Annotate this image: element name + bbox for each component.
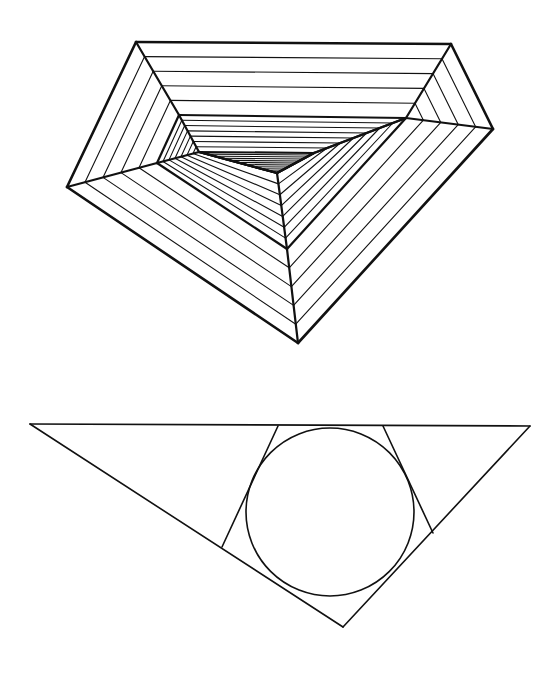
hatch-line	[424, 88, 441, 122]
hatch-line	[163, 161, 286, 238]
skeleton-spoke	[406, 118, 493, 129]
skeleton-spoke	[277, 173, 287, 249]
hatch-line	[85, 57, 145, 183]
tangent-line	[222, 426, 278, 547]
hatch-line	[196, 147, 327, 148]
triangle-edge	[30, 424, 530, 426]
hatch-line	[153, 71, 433, 73]
hatch-line	[85, 182, 296, 324]
skeleton-spoke	[136, 42, 179, 115]
inscribed-circle	[246, 428, 414, 596]
hatch-line	[207, 154, 310, 155]
level-edge	[136, 42, 451, 44]
hatch-line	[103, 71, 153, 177]
triangle-edge	[343, 426, 530, 627]
hatch-line	[163, 120, 182, 161]
hatch-line	[139, 168, 289, 268]
hatch-line	[175, 131, 188, 158]
hatch-line	[145, 57, 442, 59]
hatch-line	[442, 59, 476, 127]
level-edge	[451, 44, 493, 129]
hatch-line	[230, 160, 299, 161]
hatch-line	[291, 122, 440, 286]
hatch-line	[121, 86, 162, 173]
hatch-line	[433, 74, 458, 125]
level-edge	[179, 115, 406, 118]
hatch-line	[190, 136, 353, 138]
hatch-line	[181, 157, 281, 206]
hatch-line	[286, 123, 393, 238]
nested-pentagon-figure	[67, 42, 493, 343]
hatch-line	[121, 173, 291, 287]
hatch-line	[296, 127, 476, 324]
level-edge	[199, 152, 314, 153]
level-edge	[67, 187, 298, 343]
hatch-line	[415, 103, 423, 120]
hatch-line	[188, 131, 367, 133]
triangle-incircle-figure	[30, 424, 530, 627]
skeleton-spoke	[406, 44, 451, 118]
hatch-line	[182, 120, 393, 123]
hatch-line	[185, 126, 380, 128]
level-edge	[298, 129, 493, 343]
diagram-canvas	[0, 0, 557, 677]
skeleton-spoke	[287, 249, 298, 343]
hatch-line	[170, 100, 415, 103]
triangle-edge	[30, 424, 343, 627]
hatch-line	[215, 156, 307, 157]
hatch-line	[222, 158, 303, 159]
level-edge	[157, 163, 287, 249]
level-edge	[67, 42, 136, 187]
hatch-line	[238, 163, 296, 164]
hatch-line	[162, 86, 424, 89]
hatch-line	[103, 177, 294, 305]
hatch-line	[193, 141, 340, 143]
tangent-line	[383, 426, 433, 533]
hatch-line	[139, 100, 170, 167]
